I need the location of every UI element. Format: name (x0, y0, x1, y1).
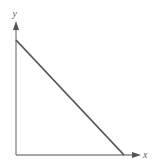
x-axis-label: x (142, 149, 148, 160)
coordinate-plane: y x (0, 0, 155, 165)
y-axis-arrow-icon (13, 21, 19, 30)
graph-figure: y x (0, 0, 155, 165)
x-axis-arrow-icon (132, 152, 141, 158)
y-axis-label: y (12, 8, 18, 19)
graph-line (16, 40, 124, 155)
